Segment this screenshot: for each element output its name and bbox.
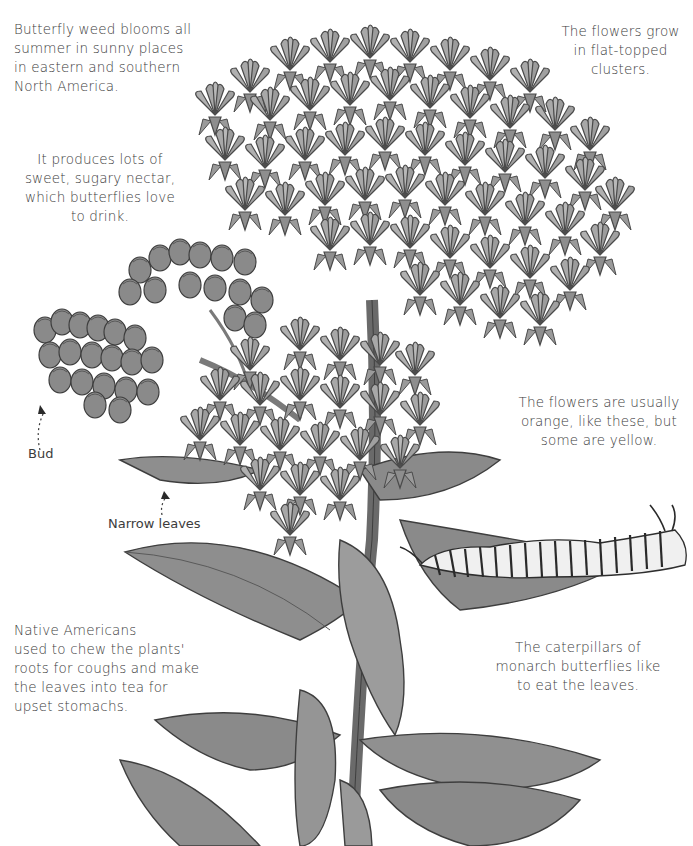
note-clusters: The flowers grow in flat-topped clusters… bbox=[548, 22, 693, 79]
flower-cluster-middle bbox=[181, 317, 440, 555]
note-caterpillars: The caterpillars of monarch butterflies … bbox=[478, 638, 678, 695]
leaf-pointer-arrow bbox=[162, 497, 167, 515]
label-narrow-leaves: Narrow leaves bbox=[108, 516, 201, 531]
note-nectar: It produces lots of sweet, sugary nectar… bbox=[10, 150, 190, 226]
bud-cluster bbox=[34, 239, 273, 423]
note-intro: Butterfly weed blooms all summer in sunn… bbox=[14, 20, 191, 96]
note-colors: The flowers are usually orange, like the… bbox=[505, 393, 693, 450]
note-native-uses: Native Americans used to chew the plants… bbox=[14, 621, 199, 716]
label-bud: Bud bbox=[28, 446, 53, 461]
bud-pointer-arrow bbox=[38, 412, 44, 450]
